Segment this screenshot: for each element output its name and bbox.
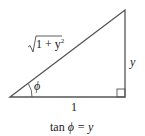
right-angle-marker <box>117 89 125 97</box>
angle-phi-label: ϕ <box>34 80 40 92</box>
caption-phi: ϕ <box>68 120 74 134</box>
caption-tan: tan <box>50 120 65 134</box>
caption-equals-y: = y <box>77 120 93 134</box>
radicand: 1 + y <box>36 37 61 51</box>
caption: tan ϕ = y <box>50 121 93 133</box>
angle-arc <box>29 84 33 97</box>
hypotenuse-label: 1 + y2 <box>36 38 64 50</box>
exponent: 2 <box>61 37 65 45</box>
side-y-label: y <box>130 56 135 68</box>
triangle-figure <box>0 0 145 136</box>
side-1-label: 1 <box>71 101 77 113</box>
triangle <box>10 10 125 97</box>
